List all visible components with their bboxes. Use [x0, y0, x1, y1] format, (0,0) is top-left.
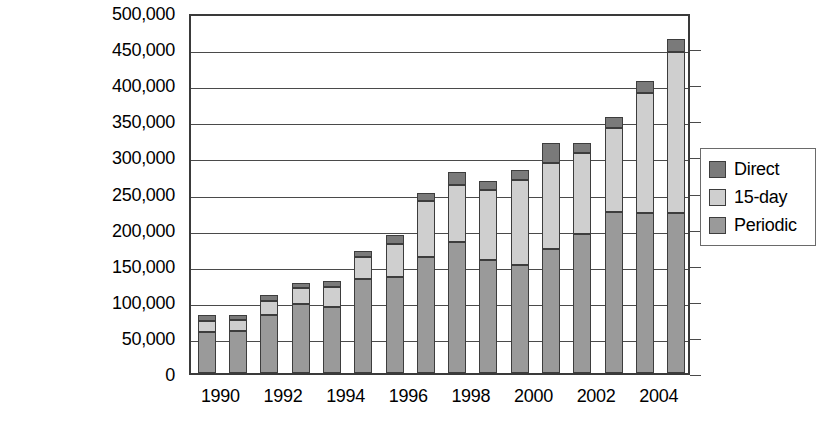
- legend-swatch-icon: [709, 161, 726, 178]
- y-tick-label: 400,000: [112, 76, 175, 97]
- bar-1999[interactable]: [479, 172, 497, 373]
- bar-2003[interactable]: [605, 117, 623, 373]
- y-tick-label: 50,000: [122, 328, 175, 349]
- x-tick-label: 2000: [514, 386, 553, 407]
- bar-1994[interactable]: [323, 281, 341, 373]
- y-axis: 500,000450,000400,000350,000300,000250,0…: [0, 0, 183, 421]
- chart-legend: Direct15-dayPeriodic: [700, 148, 816, 246]
- bar-segment-periodic[interactable]: [260, 315, 278, 373]
- y-tick-label: 450,000: [112, 40, 175, 61]
- bar-segment-15-day[interactable]: [229, 320, 247, 331]
- y-tick-label: 350,000: [112, 112, 175, 133]
- right-axis-tick: [690, 50, 701, 51]
- bar-segment-direct[interactable]: [542, 143, 560, 162]
- bars-layer: [191, 16, 688, 373]
- bar-segment-15-day[interactable]: [448, 185, 466, 241]
- y-tick-label: 200,000: [112, 220, 175, 241]
- x-tick-label: 1994: [326, 386, 365, 407]
- x-tick-label: 2002: [577, 386, 616, 407]
- bar-segment-periodic[interactable]: [667, 213, 685, 373]
- right-axis-tick: [690, 122, 701, 123]
- bar-segment-periodic[interactable]: [229, 331, 247, 373]
- bar-segment-15-day[interactable]: [479, 190, 497, 259]
- right-axis-tick: [690, 267, 701, 268]
- bar-segment-direct[interactable]: [229, 315, 247, 320]
- plot-area: [189, 14, 690, 375]
- bar-segment-15-day[interactable]: [354, 257, 372, 279]
- x-axis: 19901992199419961998200020022004: [189, 378, 690, 421]
- bar-segment-direct[interactable]: [386, 235, 404, 244]
- bar-segment-periodic[interactable]: [354, 279, 372, 373]
- bar-2000[interactable]: [511, 182, 529, 373]
- x-tick-label: 1992: [264, 386, 303, 407]
- bar-segment-direct[interactable]: [260, 295, 278, 301]
- bar-segment-direct[interactable]: [354, 251, 372, 257]
- bar-segment-direct[interactable]: [323, 281, 341, 287]
- bar-segment-15-day[interactable]: [542, 163, 560, 249]
- bar-segment-periodic[interactable]: [323, 307, 341, 373]
- legend-label: Direct: [734, 159, 779, 180]
- bar-1992[interactable]: [260, 295, 278, 373]
- bar-2004[interactable]: [636, 81, 654, 373]
- bar-1993[interactable]: [292, 283, 310, 373]
- bar-1990[interactable]: [198, 315, 216, 373]
- right-axis-tick: [690, 303, 701, 304]
- bar-segment-periodic[interactable]: [636, 213, 654, 373]
- legend-item-15-day[interactable]: 15-day: [709, 183, 815, 211]
- legend-swatch-icon: [709, 217, 726, 234]
- bar-segment-periodic[interactable]: [542, 249, 560, 373]
- legend-item-periodic[interactable]: Periodic: [709, 211, 815, 239]
- bar-segment-15-day[interactable]: [511, 180, 529, 265]
- bar-segment-direct[interactable]: [479, 181, 497, 190]
- bar-segment-15-day[interactable]: [292, 288, 310, 304]
- bar-segment-15-day[interactable]: [386, 244, 404, 277]
- bar-2001[interactable]: [542, 170, 560, 373]
- y-tick-label: 500,000: [112, 4, 175, 25]
- right-axis-tick: [690, 86, 701, 87]
- bar-segment-15-day[interactable]: [605, 128, 623, 212]
- x-tick-label: 1998: [451, 386, 490, 407]
- x-tick-label: 2004: [639, 386, 678, 407]
- bar-segment-15-day[interactable]: [323, 287, 341, 306]
- bar-segment-periodic[interactable]: [605, 212, 623, 373]
- bar-segment-direct[interactable]: [292, 283, 310, 288]
- x-tick-label: 1990: [201, 386, 240, 407]
- bar-segment-periodic[interactable]: [511, 265, 529, 373]
- bar-segment-direct[interactable]: [448, 172, 466, 185]
- bar-segment-direct[interactable]: [636, 81, 654, 93]
- bar-segment-direct[interactable]: [198, 315, 216, 321]
- bar-segment-periodic[interactable]: [198, 332, 216, 373]
- bar-1991[interactable]: [229, 315, 247, 373]
- bar-segment-periodic[interactable]: [417, 257, 435, 373]
- y-tick-label: 100,000: [112, 292, 175, 313]
- bar-1996[interactable]: [386, 250, 404, 373]
- bar-segment-periodic[interactable]: [573, 234, 591, 373]
- bar-segment-direct[interactable]: [667, 39, 685, 52]
- bar-segment-15-day[interactable]: [417, 201, 435, 257]
- bar-segment-direct[interactable]: [573, 143, 591, 152]
- bar-segment-15-day[interactable]: [573, 153, 591, 235]
- bar-segment-15-day[interactable]: [667, 52, 685, 213]
- legend-item-direct[interactable]: Direct: [709, 155, 815, 183]
- bar-2005[interactable]: [667, 39, 685, 373]
- bar-1995[interactable]: [354, 271, 372, 373]
- bar-segment-15-day[interactable]: [260, 301, 278, 315]
- bar-segment-periodic[interactable]: [386, 277, 404, 373]
- bar-segment-periodic[interactable]: [292, 304, 310, 373]
- bar-segment-direct[interactable]: [511, 170, 529, 179]
- bar-1997[interactable]: [417, 230, 435, 373]
- bar-segment-periodic[interactable]: [448, 242, 466, 373]
- bar-2002[interactable]: [573, 143, 591, 373]
- bar-segment-periodic[interactable]: [479, 260, 497, 373]
- bar-segment-direct[interactable]: [417, 193, 435, 202]
- bar-segment-direct[interactable]: [605, 117, 623, 128]
- legend-label: 15-day: [734, 187, 787, 208]
- bar-1998[interactable]: [448, 195, 466, 373]
- bar-segment-15-day[interactable]: [198, 321, 216, 332]
- right-axis-tick: [690, 375, 701, 376]
- legend-label: Periodic: [734, 215, 797, 236]
- y-tick-label: 250,000: [112, 184, 175, 205]
- bar-segment-15-day[interactable]: [636, 93, 654, 213]
- y-tick-label: 150,000: [112, 256, 175, 277]
